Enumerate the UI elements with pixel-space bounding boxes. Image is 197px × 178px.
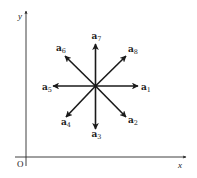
vector-a2 — [96, 86, 127, 117]
label-a2: a2 — [128, 115, 138, 127]
label-a8: a8 — [128, 44, 138, 56]
label-a4: a4 — [61, 117, 71, 129]
y-axis-label: y — [17, 11, 22, 21]
origin-label: O — [17, 159, 24, 169]
label-a7: a7 — [92, 31, 102, 43]
vector-a6 — [65, 56, 96, 86]
vector-a4 — [66, 86, 96, 117]
label-a3: a3 — [92, 129, 102, 141]
label-a6: a6 — [56, 43, 66, 55]
x-axis-label: x — [177, 160, 182, 170]
center-point — [94, 84, 98, 88]
vector-diagram: y x O a1 a2 a3 a4 a5 a6 a7 a8 — [0, 0, 197, 178]
label-a5: a5 — [42, 82, 52, 94]
label-a1: a1 — [141, 82, 151, 94]
vector-a8 — [96, 56, 127, 86]
